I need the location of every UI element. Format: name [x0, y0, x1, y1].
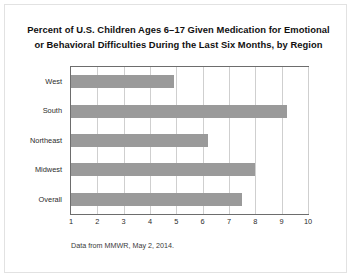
x-axis-label-1: 1 [69, 217, 73, 226]
bar-row [71, 96, 308, 125]
x-axis-label-3: 3 [122, 217, 126, 226]
y-axis-label-south: South [5, 96, 66, 125]
y-axis-label-midwest: Midwest [5, 155, 66, 184]
bar-west [71, 75, 174, 88]
bar-northeast [71, 134, 208, 147]
x-axis-label-10: 10 [304, 217, 312, 226]
plot-area [70, 66, 309, 215]
bar-row [71, 185, 308, 214]
x-axis-tick-labels: 12345678910 [70, 217, 309, 230]
x-axis-label-2: 2 [95, 217, 99, 226]
bar-row [71, 67, 308, 96]
bar-row [71, 155, 308, 184]
chart-title-line-1: Percent of U.S. Children Ages 6–17 Given… [21, 23, 336, 38]
bar-overall [71, 193, 242, 206]
bar-south [71, 105, 287, 118]
x-axis-label-9: 9 [280, 217, 284, 226]
y-axis-label-northeast: Northeast [5, 126, 66, 155]
x-axis-label-4: 4 [148, 217, 152, 226]
source-note: Data from MMWR, May 2, 2014. [71, 241, 174, 250]
bar-midwest [71, 163, 255, 176]
bars-layer [71, 67, 308, 214]
x-axis-label-6: 6 [201, 217, 205, 226]
y-axis-category-labels: WestSouthNortheastMidwestOverall [5, 66, 66, 215]
gridline [308, 67, 309, 214]
bar-row [71, 126, 308, 155]
figure-container: Percent of U.S. Children Ages 6–17 Given… [4, 4, 347, 273]
x-axis-label-8: 8 [253, 217, 257, 226]
x-axis-label-5: 5 [174, 217, 178, 226]
chart-title-line-2: or Behavioral Difficulties During the La… [21, 38, 336, 53]
y-axis-label-overall: Overall [5, 185, 66, 214]
x-axis-label-7: 7 [227, 217, 231, 226]
y-axis-label-west: West [5, 67, 66, 96]
chart-title: Percent of U.S. Children Ages 6–17 Given… [21, 23, 336, 52]
